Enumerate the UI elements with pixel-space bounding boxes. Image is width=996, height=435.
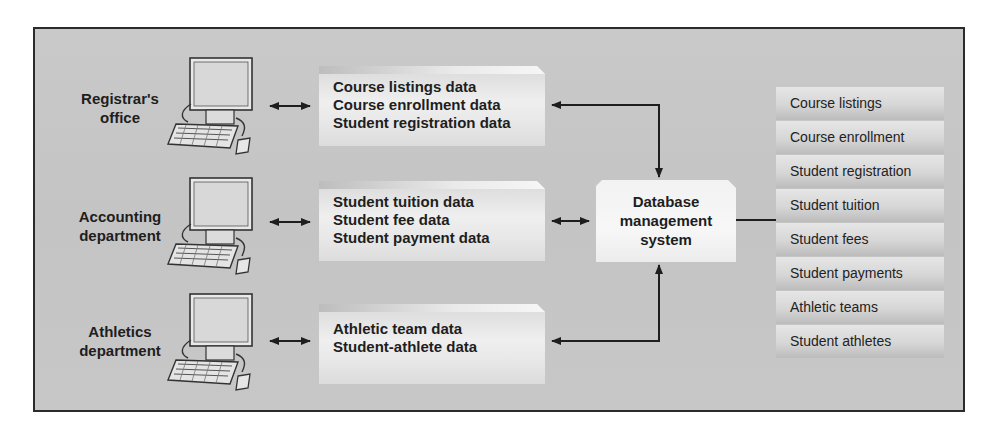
desktop-computer-icon: [158, 176, 258, 276]
table-item: Student athletes: [776, 325, 944, 358]
table-item: Course enrollment: [776, 121, 944, 154]
data-item: Student payment data: [333, 229, 545, 247]
dbms-label: management: [596, 211, 736, 230]
dbms-box: Database management system: [596, 180, 736, 262]
data-box-registrar: Course listings data Course enrollment d…: [319, 66, 545, 146]
data-item: Student-athlete data: [333, 338, 545, 356]
data-box-athletics: Athletic team data Student-athlete data: [319, 304, 545, 384]
table-item: Athletic teams: [776, 291, 944, 324]
data-item: Athletic team data: [333, 320, 545, 338]
dbms-label: Database: [596, 192, 736, 211]
table-item: Student payments: [776, 257, 944, 290]
desktop-computer-icon: [158, 292, 258, 392]
database-tables-list: Course listings Course enrollment Studen…: [776, 87, 944, 359]
data-item: Course enrollment data: [333, 96, 545, 114]
data-item: Student tuition data: [333, 193, 545, 211]
table-item: Student registration: [776, 155, 944, 188]
desktop-computer-icon: [158, 56, 258, 156]
data-box-accounting: Student tuition data Student fee data St…: [319, 181, 545, 261]
data-item: Student registration data: [333, 114, 545, 132]
table-item: Course listings: [776, 87, 944, 120]
table-item: Student tuition: [776, 189, 944, 222]
data-item: Student fee data: [333, 211, 545, 229]
dbms-label: system: [596, 230, 736, 249]
data-item: Course listings data: [333, 78, 545, 96]
table-item: Student fees: [776, 223, 944, 256]
